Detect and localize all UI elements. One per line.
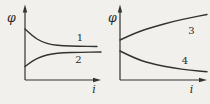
left-chart: φ i 1 2: [0, 0, 105, 104]
curve-2: [25, 52, 101, 67]
curve-4: [120, 51, 207, 72]
y-axis-arrow-icon: [118, 5, 122, 13]
curve-1: [25, 29, 97, 47]
y-axis-label: φ: [108, 10, 117, 25]
y-axis-arrow-icon: [23, 5, 27, 13]
curve-3-label: 3: [188, 25, 194, 36]
curve-4-label: 4: [182, 55, 188, 66]
x-axis-label: i: [92, 83, 96, 96]
curve-2-label: 2: [75, 54, 81, 65]
two-panel-figure: φ i 1 2 φ i 3 4: [0, 0, 210, 104]
right-chart: φ i 3 4: [105, 0, 210, 104]
x-axis-label: i: [190, 83, 194, 96]
curve-1-label: 1: [77, 32, 83, 43]
x-axis-arrow-icon: [199, 78, 207, 82]
y-axis-label: φ: [7, 10, 16, 25]
